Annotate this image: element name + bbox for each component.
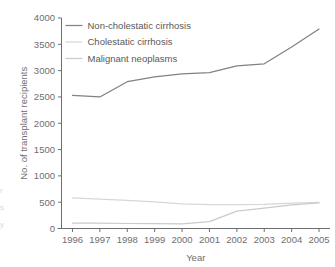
line-chart: 0500100015002000250030003500400019961997…	[0, 0, 335, 267]
y-tick-label: 500	[39, 197, 55, 208]
x-tick-label: 2005	[308, 234, 329, 245]
chart-figure: r s y 0500100015002000250030003500400019…	[0, 0, 335, 267]
y-tick-label: 3000	[34, 65, 55, 76]
x-tick-label: 1999	[144, 234, 165, 245]
x-tick-label: 2002	[226, 234, 247, 245]
x-tick-label: 1996	[62, 234, 83, 245]
series-line-cholestatic-cirrhosis	[72, 198, 319, 205]
y-tick-label: 3500	[34, 39, 55, 50]
legend-label-1: Non-cholestatic cirrhosis	[88, 20, 192, 31]
y-tick-label: 2500	[34, 91, 55, 102]
y-axis-title: No. of transplant recipients	[18, 67, 29, 180]
y-tick-label: 1000	[34, 170, 55, 181]
x-tick-label: 2004	[281, 234, 302, 245]
y-tick-label: 1500	[34, 144, 55, 155]
legend-label-2: Cholestatic cirrhosis	[88, 36, 173, 47]
series-line-malignant-neoplasms	[72, 203, 319, 224]
x-tick-label: 1997	[89, 234, 110, 245]
chart-legend: Non-cholestatic cirrhosisCholestatic cir…	[66, 20, 192, 64]
y-tick-label: 0	[50, 223, 55, 234]
y-tick-label: 4000	[34, 12, 55, 23]
x-tick-label: 2001	[199, 234, 220, 245]
x-tick-label: 2003	[254, 234, 275, 245]
x-tick-label: 1998	[117, 234, 138, 245]
x-tick-label: 2000	[171, 234, 192, 245]
x-axis-title: Year	[186, 252, 205, 263]
y-tick-label: 2000	[34, 118, 55, 129]
legend-label-3: Malignant neoplasms	[88, 53, 178, 64]
